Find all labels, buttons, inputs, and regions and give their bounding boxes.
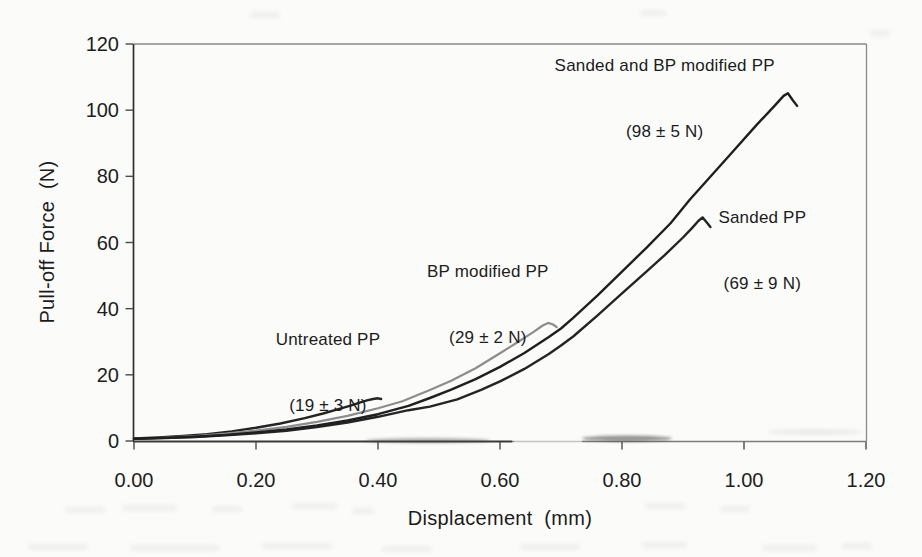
scan-ghost-mark bbox=[292, 503, 337, 509]
scan-ghost-mark bbox=[262, 543, 332, 549]
annotation-sanded-and-bp-modified-pp: Sanded and BP modified PP (98 ± 5 N) bbox=[555, 11, 775, 187]
scan-ghost-mark bbox=[212, 506, 242, 512]
scan-ghost-mark bbox=[65, 507, 105, 513]
scan-ghost-mark bbox=[382, 546, 432, 552]
scan-smudge bbox=[582, 436, 672, 442]
curve-sanded-pp bbox=[134, 217, 710, 438]
y-tick-label: 120 bbox=[86, 33, 119, 55]
y-tick-label: 60 bbox=[97, 232, 119, 254]
scan-smudge bbox=[366, 438, 490, 443]
annotation-bp-modified-pp: BP modified PP (29 ± 2 N) bbox=[427, 217, 549, 393]
pulloff-force-chart: 0.000.200.400.600.801.001.20020406080100… bbox=[0, 0, 922, 557]
scan-ghost-mark bbox=[250, 12, 280, 18]
scan-ghost-mark bbox=[130, 545, 220, 551]
x-tick-label: 0.60 bbox=[481, 469, 520, 491]
scan-ghost-mark bbox=[352, 508, 374, 514]
annotation-label: Sanded PP bbox=[718, 207, 806, 229]
annotation-label: Untreated PP bbox=[276, 329, 380, 351]
annotation-sanded-pp: Sanded PP (69 ± 9 N) bbox=[718, 163, 806, 339]
scan-smudge bbox=[767, 430, 863, 435]
x-tick-label: 0.40 bbox=[359, 469, 398, 491]
annotation-label: Sanded and BP modified PP bbox=[555, 55, 775, 77]
scan-ghost-mark bbox=[720, 506, 750, 512]
y-tick-label: 0 bbox=[108, 430, 119, 452]
annotation-value: (29 ± 2 N) bbox=[427, 327, 549, 349]
y-axis-title: Pull-off Force (N) bbox=[36, 160, 59, 323]
annotation-value: (98 ± 5 N) bbox=[555, 121, 775, 143]
annotation-value: (19 ± 3 N) bbox=[276, 395, 380, 417]
y-tick-label: 80 bbox=[97, 165, 119, 187]
x-tick-label: 0.80 bbox=[603, 469, 642, 491]
scan-fade bbox=[514, 440, 582, 445]
scan-ghost-mark bbox=[762, 545, 817, 551]
y-tick-label: 20 bbox=[97, 364, 119, 386]
x-tick-label: 0.20 bbox=[237, 469, 276, 491]
annotation-untreated-pp: Untreated PP (19 ± 3 N) bbox=[276, 285, 380, 461]
scan-ghost-mark bbox=[870, 30, 890, 36]
x-tick-label: 1.00 bbox=[725, 469, 764, 491]
scan-ghost-mark bbox=[642, 542, 687, 548]
y-tick-label: 40 bbox=[97, 298, 119, 320]
scan-ghost-mark bbox=[122, 505, 177, 511]
annotation-label: BP modified PP bbox=[427, 261, 549, 283]
scan-ghost-mark bbox=[645, 503, 685, 509]
x-tick-label: 1.20 bbox=[847, 469, 886, 491]
x-tick-label: 0.00 bbox=[115, 469, 154, 491]
scan-ghost-mark bbox=[520, 544, 580, 550]
y-tick-label: 100 bbox=[86, 99, 119, 121]
scanned-page: 0.000.200.400.600.801.001.20020406080100… bbox=[0, 0, 922, 557]
scan-ghost-mark bbox=[842, 543, 872, 549]
scan-ghost-mark bbox=[28, 544, 88, 550]
annotation-value: (69 ± 9 N) bbox=[718, 273, 806, 295]
x-axis-title: Displacement (mm) bbox=[408, 507, 592, 530]
